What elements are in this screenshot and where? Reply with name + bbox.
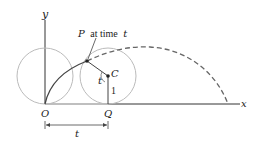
radius-label: 1 bbox=[111, 85, 116, 96]
x-axis-label: x bbox=[241, 98, 247, 109]
p-label-letter: P bbox=[77, 28, 85, 39]
y-axis-label: y bbox=[41, 8, 49, 21]
cycloid-diagram: y x O Q C t 1 t P at time t bbox=[0, 0, 259, 145]
p-label: P at time t bbox=[77, 28, 128, 39]
p-label-suffix: at time bbox=[90, 28, 118, 39]
point-p bbox=[85, 59, 89, 63]
distance-label: t bbox=[75, 128, 80, 139]
radius-cp bbox=[87, 61, 108, 76]
angle-label: t bbox=[98, 75, 103, 86]
p-leader-line bbox=[88, 38, 96, 59]
p-label-time: t bbox=[123, 28, 128, 39]
q-label: Q bbox=[104, 108, 112, 119]
arrow-left-icon bbox=[46, 123, 50, 127]
arrow-right-icon bbox=[103, 123, 107, 127]
point-c bbox=[106, 74, 110, 78]
c-label: C bbox=[111, 68, 119, 79]
origin-label: O bbox=[41, 108, 49, 119]
